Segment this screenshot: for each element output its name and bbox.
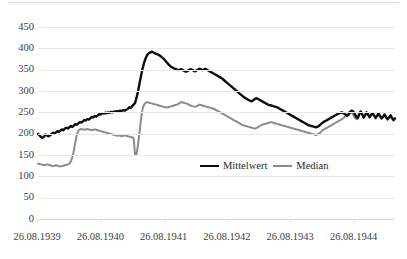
x-axis-labels: 26.08.193926.08.194026.08.194126.08.1942… [0,231,407,247]
x-axis-tick-1: 26.08.1940 [77,231,124,243]
gridline-400 [38,48,395,49]
x-tickmark-3 [227,219,228,223]
gridline-350 [38,70,395,71]
x-axis-tick-4: 26.08.1943 [267,231,314,243]
plot-area [38,27,395,219]
gridline-50 [38,198,395,199]
y-axis-tick-50: 50 [0,192,34,203]
y-axis-tick-200: 200 [0,128,34,139]
x-axis-tickmarks [38,219,395,223]
x-tickmark-1 [100,219,101,223]
y-axis-tick-0: 0 [0,214,34,225]
top-frame-rule [8,2,399,3]
y-axis-tick-350: 350 [0,64,34,75]
legend-label-mittelwert: Mittelwert [223,160,267,172]
gridline-250 [38,112,395,113]
x-axis-tick-3: 26.08.1942 [203,231,250,243]
gridline-450 [38,27,395,28]
y-axis-tick-250: 250 [0,107,34,118]
gridline-200 [38,134,395,135]
x-axis-tick-2: 26.08.1941 [140,231,187,243]
gridline-300 [38,91,395,92]
chart-legend: Mittelwert Median [200,159,328,173]
line-chart: 050100150200250300350400450 26.08.193926… [0,0,407,259]
y-axis-tick-150: 150 [0,150,34,161]
x-tickmark-4 [290,219,291,223]
series-line-mittelwert [38,52,395,138]
y-axis-tick-100: 100 [0,171,34,182]
x-tickmark-0 [37,219,38,223]
y-axis-labels: 050100150200250300350400450 [0,0,34,259]
gridline-100 [38,176,395,177]
x-tickmark-5 [354,219,355,223]
y-axis-tick-400: 400 [0,43,34,54]
x-tickmark-2 [164,219,165,223]
legend-item-median: Median [273,160,328,172]
legend-swatch-mittelwert [200,165,219,167]
series-layer [38,27,395,219]
y-axis-tick-450: 450 [0,22,34,33]
gridline-150 [38,155,395,156]
legend-swatch-median [273,165,292,167]
legend-item-mittelwert: Mittelwert [200,160,267,172]
x-axis-tick-5: 26.08.1944 [330,231,377,243]
legend-label-median: Median [296,160,328,172]
x-axis-tick-0: 26.08.1939 [13,231,60,243]
y-axis-tick-300: 300 [0,86,34,97]
